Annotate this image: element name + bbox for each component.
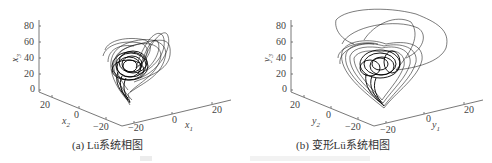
x-tick-0: 0 — [426, 113, 431, 124]
z-axis-label: y3 — [261, 54, 275, 63]
y-tick-20: 20 — [290, 99, 300, 110]
x-axis-label: y1 — [431, 119, 440, 133]
y-tick-neg20: −20 — [93, 121, 109, 132]
z-tick-40: 40 — [276, 52, 286, 63]
attractor-trajectory — [336, 9, 447, 108]
z-tick-40: 40 — [24, 52, 34, 63]
y-tick-0: 0 — [74, 109, 79, 120]
caption-b: (b) 变形Lü系统相图 — [296, 136, 390, 152]
faint-artifact — [140, 156, 152, 161]
z-tick-0: 0 — [30, 83, 35, 94]
y-axis-label: y2 — [311, 115, 320, 129]
z-tick-20: 20 — [276, 68, 286, 79]
x-tick-20: 20 — [212, 104, 222, 115]
y-tick-0: 0 — [326, 109, 331, 120]
y-tick-20: 20 — [40, 99, 50, 110]
y-axis-label: x2 — [61, 115, 70, 129]
z-tick-80: 80 — [276, 20, 286, 31]
z-tick-60: 60 — [276, 36, 286, 47]
chart-panel-a: 80 60 40 20 0 x3 20 0 −20 x2 −20 0 20 x1 — [0, 0, 246, 163]
x-tick-neg20: −20 — [380, 124, 396, 135]
z-tick-60: 60 — [24, 36, 34, 47]
x-tick-0: 0 — [172, 114, 177, 125]
chart-panel-b: 80 60 40 20 0 y3 20 0 −20 y2 −20 0 20 y1 — [246, 0, 492, 163]
x-tick-neg20: −20 — [128, 122, 144, 133]
z-tick-0: 0 — [282, 83, 287, 94]
x-tick-20: 20 — [464, 104, 474, 115]
z-tick-80: 80 — [24, 20, 34, 31]
axes — [291, 20, 483, 126]
z-axis-label: x3 — [9, 54, 23, 63]
faint-cutoff-caption — [250, 156, 370, 161]
z-tick-20: 20 — [24, 68, 34, 79]
caption-a: (a) Lü系统相图 — [72, 136, 143, 152]
y-tick-neg20: −20 — [345, 121, 361, 132]
x-axis-label: x1 — [184, 119, 193, 133]
